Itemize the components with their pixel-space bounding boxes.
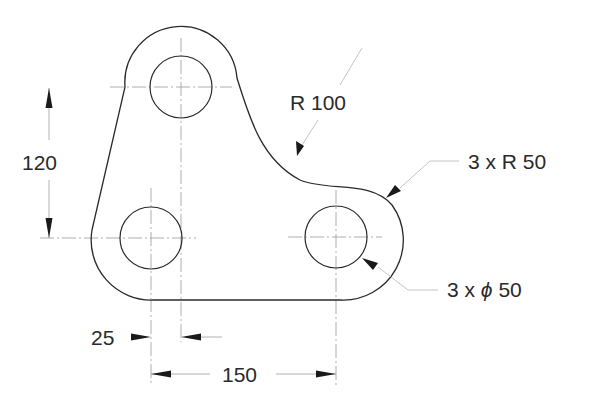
dimension-label-r50: 3 x R 50 — [468, 151, 546, 172]
dimension-label-diameter: 3 x ϕ 50 — [447, 279, 522, 300]
diameter-value: 50 — [493, 278, 522, 301]
dimension-label-150: 150 — [222, 364, 257, 385]
diameter-count: 3 x — [447, 278, 481, 301]
dimension-25 — [131, 334, 222, 341]
plate-outline — [91, 26, 403, 300]
dimension-label-25: 25 — [91, 327, 114, 348]
diameter-symbol-icon: ϕ — [481, 278, 493, 301]
dimension-label-r100: R 100 — [290, 92, 346, 113]
leader-r50 — [386, 161, 459, 198]
dimension-label-120: 120 — [22, 152, 57, 173]
leader-diameter — [362, 258, 438, 290]
